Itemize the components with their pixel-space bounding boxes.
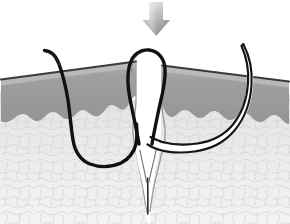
suture-illustration-canvas: [0, 0, 290, 224]
suture-diagram-figure: Suture placement through wound edges cro…: [0, 0, 290, 224]
left-skin-flap: [0, 62, 156, 224]
